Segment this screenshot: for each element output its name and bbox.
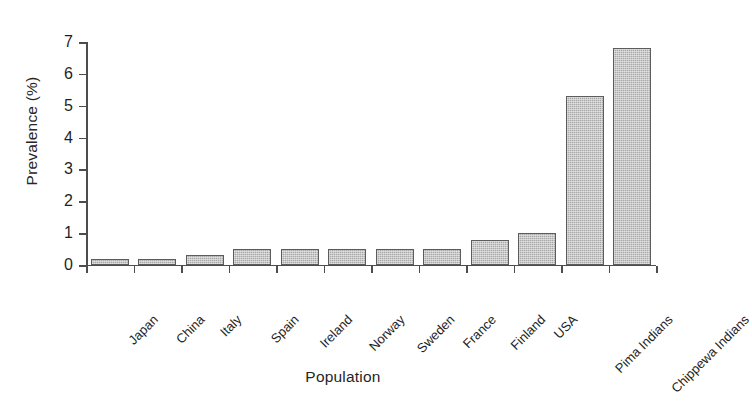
y-axis-tick: 1 (79, 233, 86, 235)
x-axis-tick (514, 266, 516, 273)
y-axis-tick: 3 (79, 169, 86, 171)
x-axis-tick (276, 266, 278, 273)
x-axis-tick (86, 266, 88, 273)
x-axis-category-label: Finland (508, 312, 549, 353)
y-axis-tick: 6 (79, 74, 86, 76)
x-axis-category-label: Ireland (317, 312, 356, 351)
x-axis-tick (181, 266, 183, 273)
y-axis-tick-label: 6 (64, 64, 73, 84)
bar (376, 249, 414, 265)
x-axis-tick (229, 266, 231, 273)
y-axis-tick: 7 (79, 42, 86, 44)
plot-area: 01234567JapanChinaItalySpainIrelandNorwa… (86, 42, 656, 265)
y-axis-tick: 2 (79, 201, 86, 203)
x-axis-tick (656, 266, 658, 273)
x-axis-tick (324, 266, 326, 273)
x-axis-category-label: Spain (268, 312, 302, 346)
y-axis-tick-label: 7 (64, 32, 73, 52)
x-axis-category-label: Italy (217, 312, 244, 339)
bar (566, 96, 604, 265)
x-axis-tick (561, 266, 563, 273)
x-axis-tick (134, 266, 136, 273)
x-axis-category-label: China (173, 312, 208, 347)
y-axis-tick-label: 2 (64, 191, 73, 211)
bar (518, 233, 556, 265)
bar (613, 48, 651, 265)
y-axis-tick-label: 3 (64, 159, 73, 179)
x-axis-tick (419, 266, 421, 273)
x-axis-category-label: USA (551, 312, 581, 342)
x-axis-category-label: Norway (366, 312, 408, 354)
x-axis-category-label: Pima Indians (612, 312, 676, 376)
x-axis-title: Population (0, 368, 686, 386)
y-axis-title: Prevalence (%) (23, 41, 41, 221)
y-axis-tick: 5 (79, 106, 86, 108)
bar (281, 249, 319, 265)
x-axis-category-label: France (460, 312, 499, 351)
y-axis-tick: 4 (79, 138, 86, 140)
x-axis-tick (609, 266, 611, 273)
bar (471, 240, 509, 265)
x-axis-tick (466, 266, 468, 273)
bar (91, 259, 129, 265)
bar (423, 249, 461, 265)
bar (138, 259, 176, 265)
bar (328, 249, 366, 265)
y-axis-tick-label: 5 (64, 96, 73, 116)
x-axis-category-label: Japan (126, 312, 162, 348)
y-axis-tick: 0 (79, 265, 86, 267)
y-axis-tick-label: 0 (64, 255, 73, 275)
y-axis-tick-label: 1 (64, 223, 73, 243)
x-axis-category-label: Sweden (414, 312, 458, 356)
bar (233, 249, 271, 265)
y-axis-tick-label: 4 (64, 128, 73, 148)
bar (186, 255, 224, 265)
x-axis-tick (371, 266, 373, 273)
